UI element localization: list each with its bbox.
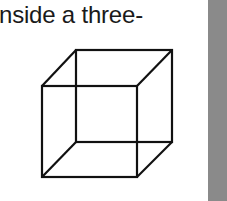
wireframe-cube-figure bbox=[0, 0, 227, 201]
page-edge-shadow bbox=[208, 0, 227, 201]
